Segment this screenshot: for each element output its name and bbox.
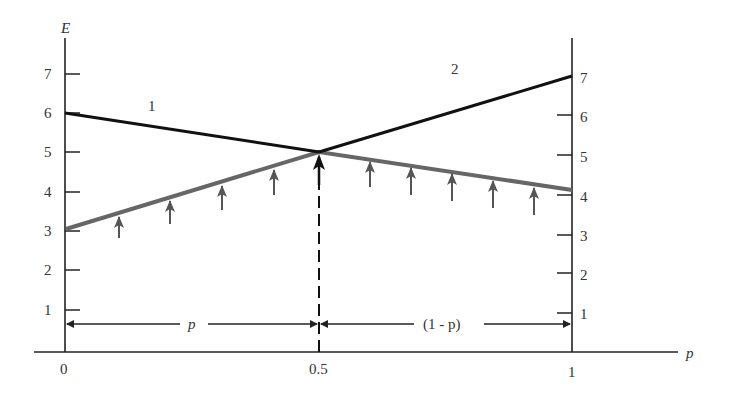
y-axis-label: E	[60, 20, 70, 36]
tick-label: 7	[580, 70, 588, 86]
tick-label: 1	[580, 306, 588, 322]
line-2-label: 2	[451, 61, 459, 77]
line-2	[319, 76, 572, 152]
tick-label: 2	[44, 262, 52, 278]
x-tick-0: 0	[60, 361, 68, 377]
tick-label: 1	[44, 302, 52, 318]
line-1-label: 1	[148, 98, 156, 114]
tick-label: 5	[580, 149, 588, 165]
x-tick-mid: 0.5	[309, 361, 328, 377]
tick-label: 2	[580, 267, 588, 283]
tick-label: 4	[44, 184, 52, 200]
tick-label: 5	[44, 144, 52, 160]
interval-1-minus-p-label: (1 - p)	[423, 316, 461, 333]
interval-p-label: p	[187, 316, 196, 332]
tick-label: 3	[580, 228, 588, 244]
tick-label: 3	[44, 223, 52, 239]
x-axis-label: p	[685, 345, 694, 361]
right-tick-labels: 1 2 3 4 5 6 7	[580, 70, 588, 322]
diagram-canvas: 1 2 3 4 5 6 7 1 2 3 4 5 6 7 E p 0 0.5 1 …	[0, 0, 730, 404]
tick-label: 6	[44, 105, 52, 121]
left-ticks	[65, 74, 80, 310]
left-tick-labels: 1 2 3 4 5 6 7	[44, 66, 52, 318]
x-tick-1: 1	[568, 364, 576, 380]
right-ticks	[557, 115, 572, 313]
line-1	[65, 113, 319, 152]
tick-label: 6	[580, 109, 588, 125]
tick-label: 4	[580, 189, 588, 205]
tick-label: 7	[44, 66, 52, 82]
